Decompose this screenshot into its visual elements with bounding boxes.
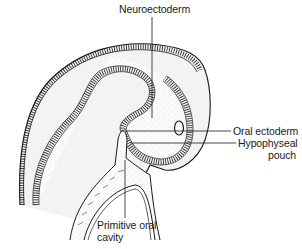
optic-vesicle — [175, 121, 184, 135]
label-primitive-oral-cavity-line2: cavity — [97, 232, 123, 243]
label-primitive-oral-cavity-line1: Primitive oral — [97, 220, 156, 231]
label-hypophyseal-pouch-line2: pouch — [268, 150, 296, 161]
label-hypophyseal-pouch-line1: Hypophyseal — [238, 138, 298, 149]
label-neuroectoderm: Neuroectoderm — [119, 4, 190, 15]
label-oral-ectoderm: Oral ectoderm — [233, 126, 298, 137]
